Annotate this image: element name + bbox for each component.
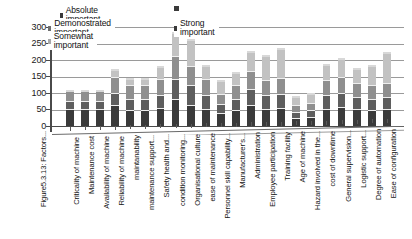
bar-top-cap [126,78,134,80]
x-tick-mark [281,122,282,126]
x-axis-label: Administration [254,132,262,179]
bar-segment [81,110,89,126]
x-axis-label: Personnel skill capability... [224,133,232,219]
x-axis-label: Training facility [284,132,292,181]
bar-top-cap [338,58,346,60]
x-tick-mark [160,124,161,128]
bar-segment [247,53,255,71]
bar-segment [292,98,300,106]
bar-segment [96,102,104,110]
bar-segment [292,106,300,113]
x-tick-mark [372,119,373,123]
x-tick-mark [342,120,343,124]
bar-17 [323,66,331,126]
x-tick-mark [130,125,131,129]
bar-segment [232,74,240,87]
bar-segment [157,109,165,126]
x-tick-mark [266,122,267,126]
bar-2 [96,92,104,126]
legend-swatch-icon [48,39,51,44]
bar-segment [262,57,270,82]
x-axis-label: Criticality of machine [73,137,81,205]
bar-segment [111,71,119,78]
bar-segment [202,67,210,81]
legend-item-strong-important[interactable]: Strong important [174,19,219,37]
legend-item-somewhat-important[interactable]: Somewhat important [48,32,97,50]
bar-segment [383,54,391,84]
bar-segment [202,80,210,96]
bar-segment [323,81,331,96]
bar-segment [157,80,165,96]
bar-segment [307,111,315,118]
bar-segment [81,102,89,110]
y-tick-label: 300 [2,23,46,32]
bar-segment [217,95,225,105]
gridline-50 [52,110,404,111]
x-tick-mark [176,124,177,128]
bar-5 [141,80,149,126]
x-axis-label: Safety health and... [163,134,171,197]
x-axis-label: Ease of configuration [390,129,398,198]
bar-19 [353,70,361,126]
bar-segment [338,94,346,108]
bar-segment [187,86,195,105]
bar-top-cap [368,65,376,67]
y-tick-mark [46,109,50,110]
plot-area [52,27,404,126]
y-tick-mark [46,93,50,94]
bar-segment [172,57,180,80]
bar-segment [383,84,391,98]
bar-segment [353,98,361,111]
x-axis-label: maintanability [133,135,141,180]
bar-segment [141,111,149,126]
bar-top-cap [277,48,285,50]
bar-segment [111,106,119,126]
bar-segment [126,100,134,112]
x-axis-labels: Figure5.3.13: Factors... Criticality of … [0,131,412,239]
bar-18 [338,60,346,126]
x-tick-mark [70,127,71,131]
bar-segment [141,100,149,112]
bar-top-cap [81,90,89,92]
bar-top-cap [232,72,240,74]
bar-segment [172,100,180,126]
legend-swatch-icon [48,26,51,31]
bar-segment [383,110,391,126]
bar-segment [126,111,134,126]
bar-segment [383,98,391,111]
bar-top-cap [307,93,315,95]
bar-top-cap [187,39,195,41]
x-tick-mark [206,123,207,127]
x-tick-mark [251,122,252,126]
bar-segment [66,102,74,110]
legend-swatch-icon [60,13,63,18]
bar-segment [247,72,255,90]
y-tick-label: 200 [2,56,46,65]
bar-segment [81,92,89,102]
bar-segment [368,67,376,86]
x-axis-label: Maintenance cost [88,136,96,194]
bar-0 [66,92,74,126]
bar-segment [126,86,134,99]
x-tick-mark [145,125,146,129]
bar-segment [338,60,346,78]
x-tick-mark [100,126,101,130]
bar-segment [141,80,149,87]
bar-14 [277,50,285,126]
bar-11 [232,74,240,126]
bar-7 [172,34,180,126]
bar-segment [217,82,225,95]
bar-segment [323,66,331,82]
bar-top-cap [247,51,255,53]
x-tick-mark [357,120,358,124]
bar-top-cap [157,66,165,68]
x-tick-mark [115,126,116,130]
x-axis-label: Age of machine [299,131,307,182]
gridline-250 [52,44,404,45]
bar-segment [111,94,119,106]
bar-top-cap [217,80,225,82]
bar-8 [187,41,195,126]
bar-top-cap [292,96,300,98]
bar-segment [96,110,104,126]
bar-1 [81,92,89,126]
